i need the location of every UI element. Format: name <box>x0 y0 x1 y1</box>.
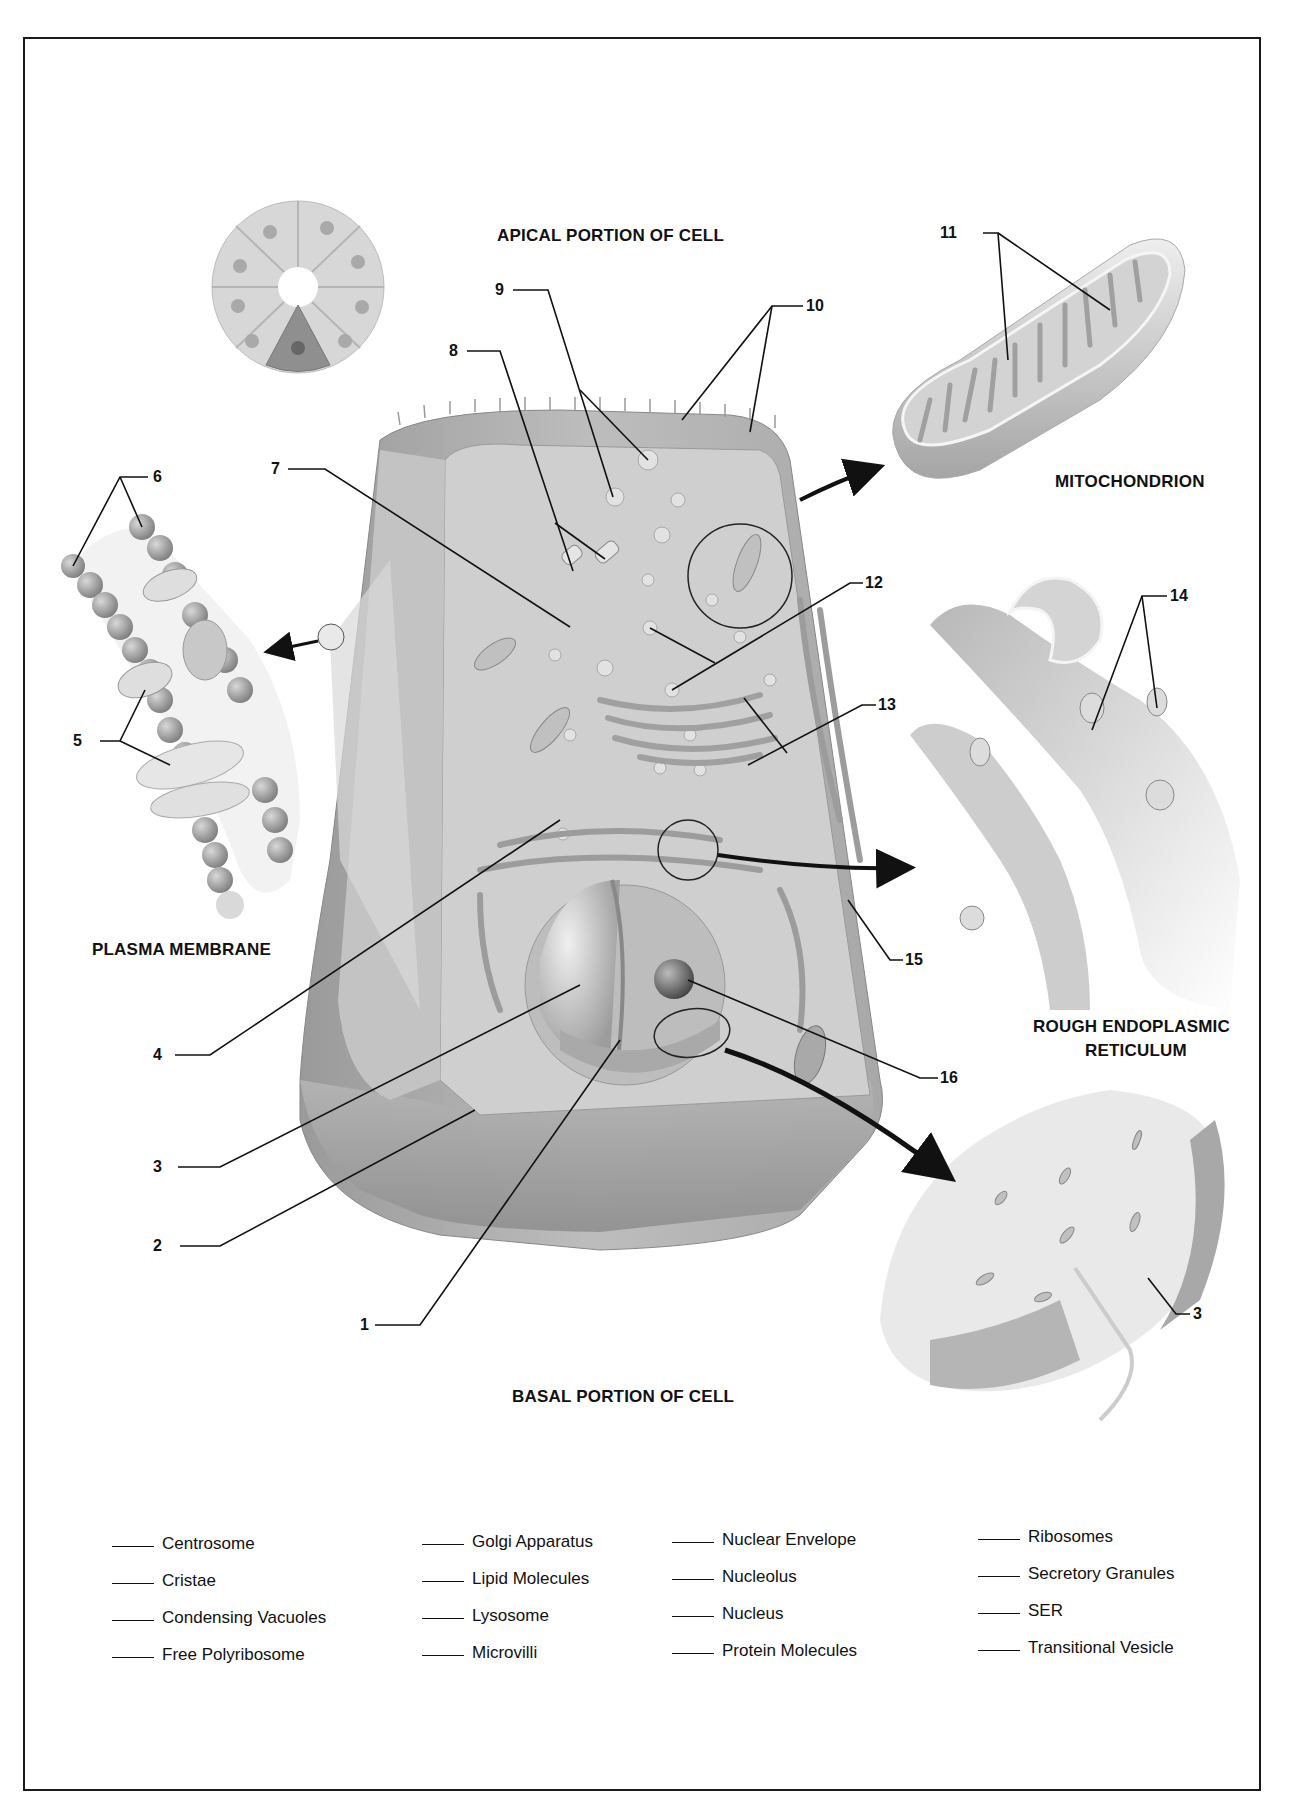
basal-portion-title: BASAL PORTION OF CELL <box>512 1387 734 1407</box>
callout-5: 5 <box>73 732 82 750</box>
answer-blank[interactable] <box>978 1613 1020 1614</box>
callout-16: 16 <box>940 1069 958 1087</box>
word-bank-item[interactable]: Lipid Molecules <box>422 1569 593 1606</box>
callout-3: 3 <box>153 1158 162 1176</box>
callout-2: 2 <box>153 1237 162 1255</box>
word-bank-item[interactable]: Microvilli <box>422 1643 593 1680</box>
callout-15: 15 <box>905 951 923 969</box>
word-bank-item[interactable]: SER <box>978 1601 1174 1638</box>
plasma-membrane-title: PLASMA MEMBRANE <box>92 940 271 960</box>
callout-7: 7 <box>271 460 280 478</box>
answer-blank[interactable] <box>978 1576 1020 1577</box>
callout-13: 13 <box>878 696 896 714</box>
apical-portion-title: APICAL PORTION OF CELL <box>497 226 724 246</box>
callout-14: 14 <box>1170 587 1188 605</box>
mitochondrion-inset <box>893 239 1185 478</box>
acinus-icon <box>212 201 384 373</box>
word-bank-column-4: Ribosomes Secretory Granules SER Transit… <box>978 1527 1174 1675</box>
word-bank-item[interactable]: Free Polyribosome <box>112 1645 326 1682</box>
callout-3-inset: 3 <box>1193 1305 1202 1323</box>
callout-10: 10 <box>806 297 824 315</box>
callout-4: 4 <box>153 1046 162 1064</box>
word-bank-item[interactable]: Lysosome <box>422 1606 593 1643</box>
answer-blank[interactable] <box>672 1616 714 1617</box>
word-bank-item[interactable]: Golgi Apparatus <box>422 1532 593 1569</box>
word-bank-item[interactable]: Nucleus <box>672 1604 857 1641</box>
word-bank-item[interactable]: Nuclear Envelope <box>672 1530 857 1567</box>
word-bank-item[interactable]: Cristae <box>112 1571 326 1608</box>
answer-blank[interactable] <box>112 1583 154 1584</box>
callout-9: 9 <box>495 281 504 299</box>
nuclear-envelope-inset <box>880 1090 1225 1420</box>
answer-blank[interactable] <box>422 1618 464 1619</box>
word-bank-item[interactable]: Nucleolus <box>672 1567 857 1604</box>
answer-blank[interactable] <box>672 1579 714 1580</box>
answer-blank[interactable] <box>978 1539 1020 1540</box>
answer-blank[interactable] <box>672 1653 714 1654</box>
answer-blank[interactable] <box>422 1581 464 1582</box>
rer-title-line2: RETICULUM <box>1085 1041 1187 1061</box>
epithelial-cell <box>300 397 883 1250</box>
answer-blank[interactable] <box>112 1546 154 1547</box>
plasma-membrane-inset <box>61 514 300 919</box>
word-bank-column-3: Nuclear Envelope Nucleolus Nucleus Prote… <box>672 1530 857 1678</box>
word-bank-item[interactable]: Centrosome <box>112 1534 326 1571</box>
rer-title-line1: ROUGH ENDOPLASMIC <box>1033 1017 1230 1037</box>
word-bank-item[interactable]: Transitional Vesicle <box>978 1638 1174 1675</box>
word-bank-column-2: Golgi Apparatus Lipid Molecules Lysosome… <box>422 1532 593 1680</box>
word-bank-column-1: Centrosome Cristae Condensing Vacuoles F… <box>112 1534 326 1682</box>
word-bank-item[interactable]: Ribosomes <box>978 1527 1174 1564</box>
callout-8: 8 <box>449 342 458 360</box>
answer-blank[interactable] <box>422 1544 464 1545</box>
word-bank-item[interactable]: Protein Molecules <box>672 1641 857 1678</box>
answer-blank[interactable] <box>978 1650 1020 1651</box>
callout-6: 6 <box>153 468 162 486</box>
callout-11: 11 <box>940 224 957 242</box>
callout-12: 12 <box>865 574 883 592</box>
callout-1: 1 <box>360 1316 369 1334</box>
mitochondrion-title: MITOCHONDRION <box>1055 472 1205 492</box>
word-bank-item[interactable]: Secretory Granules <box>978 1564 1174 1601</box>
rer-inset <box>910 578 1240 1010</box>
answer-blank[interactable] <box>112 1657 154 1658</box>
answer-blank[interactable] <box>672 1542 714 1543</box>
answer-blank[interactable] <box>112 1620 154 1621</box>
word-bank-item[interactable]: Condensing Vacuoles <box>112 1608 326 1645</box>
answer-blank[interactable] <box>422 1655 464 1656</box>
